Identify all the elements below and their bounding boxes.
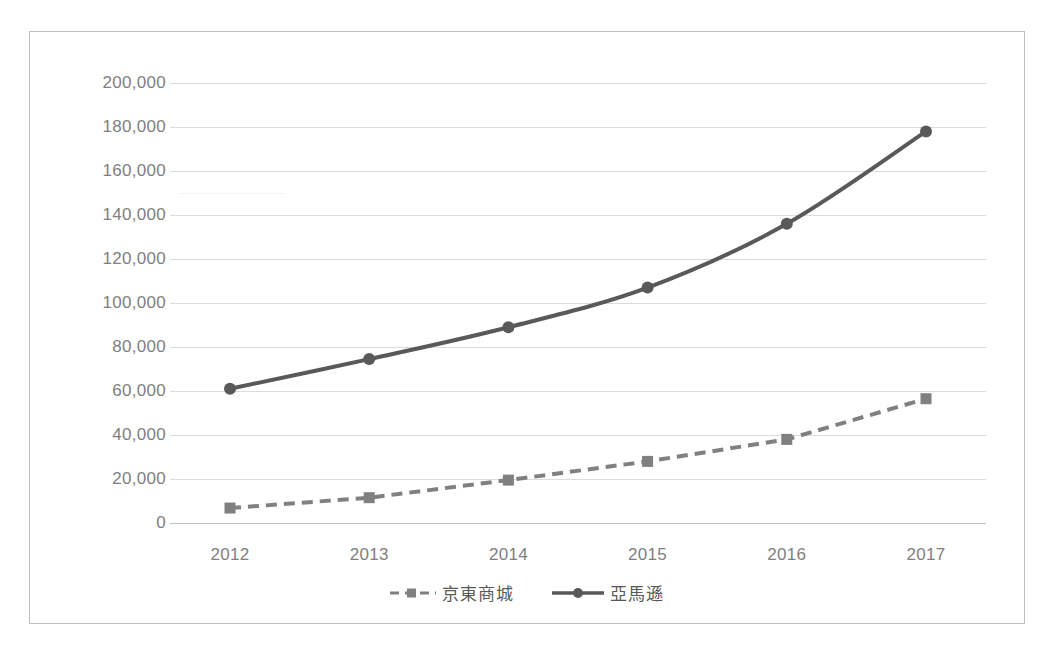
legend-item-jd[interactable]: 京東商城	[390, 580, 514, 605]
x-tick-label: 2014	[489, 545, 528, 565]
chart-legend: 京東商城 亞馬遜	[30, 580, 1024, 605]
legend-label-amazon: 亞馬遜	[610, 580, 664, 605]
square-dashed-line-swatch	[390, 586, 436, 600]
chart-frame: 020,00040,00060,00080,000100,000120,0001…	[29, 31, 1025, 624]
circle-solid-line-swatch	[552, 586, 604, 600]
x-tick-label: 2013	[350, 545, 389, 565]
plot-area: 020,00040,00060,00080,000100,000120,0001…	[30, 32, 1024, 623]
x-axis-tick-labels: 201220132014201520162017	[30, 32, 1024, 623]
legend-label-jd: 京東商城	[442, 580, 514, 605]
x-tick-label: 2012	[210, 545, 249, 565]
x-tick-label: 2017	[906, 545, 945, 565]
x-tick-label: 2015	[628, 545, 667, 565]
x-tick-label: 2016	[767, 545, 806, 565]
legend-item-amazon[interactable]: 亞馬遜	[552, 580, 664, 605]
